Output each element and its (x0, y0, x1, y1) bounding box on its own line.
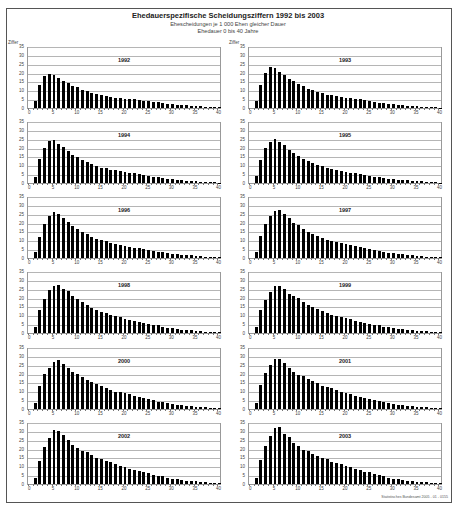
bar (34, 177, 37, 184)
x-tick-label: 25 (142, 185, 154, 190)
x-tick-label: 40 (434, 486, 446, 491)
bar (349, 98, 352, 108)
x-tick-mark (184, 333, 185, 335)
bar (124, 467, 127, 484)
bar (138, 397, 141, 409)
bar (425, 107, 428, 108)
x-tick-mark (208, 333, 209, 335)
x-tick-mark (429, 409, 430, 411)
bar (411, 481, 414, 484)
bar (138, 322, 141, 333)
bar (76, 87, 79, 108)
y-tick-label: 0 (12, 181, 24, 186)
x-tick-mark (334, 258, 335, 260)
bar (439, 408, 442, 409)
bar (264, 148, 267, 183)
x-tick-mark (108, 183, 109, 185)
bar (124, 99, 127, 108)
bar (378, 475, 381, 484)
x-tick-label: 15 (94, 411, 106, 416)
x-tick-mark (334, 484, 335, 486)
bar (382, 178, 385, 183)
x-tick-mark (179, 484, 180, 486)
bar (213, 408, 216, 409)
y-tick-label: 30 (12, 53, 24, 58)
bar (171, 479, 174, 484)
x-tick-mark (263, 258, 264, 260)
x-tick-mark (429, 258, 430, 260)
x-tick-label: 30 (165, 185, 177, 190)
bar (100, 312, 103, 333)
x-tick-mark (132, 333, 133, 335)
x-tick-mark (263, 333, 264, 335)
bar (90, 382, 93, 409)
x-tick-label: 25 (363, 260, 375, 265)
x-tick-mark (400, 258, 401, 260)
bar (288, 79, 291, 108)
bar (349, 467, 352, 484)
bar (434, 182, 437, 183)
bar (311, 381, 314, 409)
y-tick-label: 5 (233, 473, 245, 478)
bar (62, 364, 65, 409)
x-tick-mark (377, 333, 378, 335)
bar (430, 107, 433, 108)
chart-panel-2002: 0510152025303520020510152025303540 (27, 423, 249, 498)
x-tick-mark (156, 333, 157, 335)
x-tick-mark (179, 108, 180, 110)
bar (311, 307, 314, 333)
bar (278, 359, 281, 409)
bar (133, 99, 136, 108)
x-tick-mark (108, 258, 109, 260)
plot-area: 051015202530352002 (27, 423, 221, 485)
bar (180, 105, 183, 108)
x-tick-label: 0 (23, 335, 35, 340)
bar (269, 142, 272, 183)
bar (401, 254, 404, 258)
bar (86, 162, 89, 183)
bar (378, 177, 381, 183)
bar (406, 255, 409, 258)
bar (283, 434, 286, 484)
x-tick-mark (137, 183, 138, 185)
bar (161, 178, 164, 183)
bar (124, 172, 127, 183)
bar (114, 244, 117, 258)
x-tick-mark (61, 333, 62, 335)
panel-year-label: 2003 (249, 433, 441, 439)
bar (354, 321, 357, 333)
bar (411, 255, 414, 258)
y-tick-label: 10 (12, 313, 24, 318)
bar (218, 183, 221, 184)
x-tick-mark (377, 108, 378, 110)
bar (363, 248, 366, 258)
y-tick-label: 15 (12, 79, 24, 84)
bar (278, 72, 281, 108)
chart-panel-1997: 0510152025303519970510152025303540 (248, 197, 456, 272)
x-tick-mark (156, 183, 157, 185)
bar (138, 471, 141, 484)
x-tick-label: 25 (142, 486, 154, 491)
bar (340, 464, 343, 484)
bar (387, 327, 390, 333)
y-tick-label: 25 (12, 62, 24, 67)
y-tick-label: 20 (12, 447, 24, 452)
y-tick-label: 35 (12, 44, 24, 49)
bar (406, 106, 409, 108)
x-tick-label: 0 (244, 411, 256, 416)
bar (176, 479, 179, 484)
x-tick-label: 5 (268, 110, 280, 115)
bar (392, 479, 395, 484)
bar (109, 170, 112, 183)
bar (138, 174, 141, 183)
bar (86, 91, 89, 108)
x-tick-mark (66, 183, 67, 185)
bar (166, 253, 169, 258)
y-tick-label: 5 (233, 172, 245, 177)
bar (109, 243, 112, 258)
bar (307, 161, 310, 183)
x-tick-mark (203, 258, 204, 260)
x-tick-label: 5 (268, 185, 280, 190)
bar (128, 469, 131, 484)
x-tick-label: 35 (189, 411, 201, 416)
